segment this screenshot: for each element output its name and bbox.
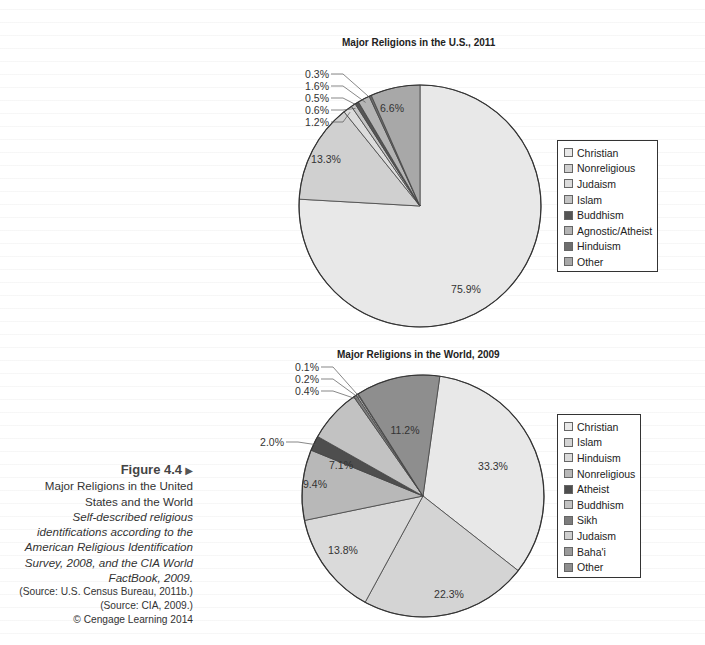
legend-swatch-icon [564,563,573,572]
caption-description-line: FactBook, 2009. [0,570,193,585]
legend-label: Nonreligious [577,468,635,480]
slice-label: 7.1% [329,459,353,471]
caption-description-line: identifications according to the [0,524,193,539]
slice-leader-label: 0.4% [295,385,319,397]
slice-label: 9.4% [303,478,327,490]
slice-label: 11.2% [391,424,420,436]
legend-label: Sikh [577,514,597,526]
legend-label: Judaism [577,530,616,542]
slice-leader-label: 2.0% [260,436,284,448]
legend-item: Nonreligious [564,466,634,482]
slice-label: 22.3% [434,588,464,600]
figure-label-row: Figure 4.4 ▶ [0,462,193,478]
legend-swatch-icon [564,469,573,478]
caption-title-line: States and the World [0,494,193,509]
slice-label: 13.8% [328,544,358,556]
legend-swatch-icon [564,516,573,525]
legend-label: Other [577,561,603,573]
figure-caption: Figure 4.4 ▶ Major Religions in the Unit… [0,462,193,627]
legend-item: Other [564,559,634,575]
slice-leader-label: 0.2% [295,373,319,385]
legend-item: Islam [564,435,634,451]
legend-item: Judaism [564,528,634,544]
legend-item: Buddhism [564,497,634,513]
legend-swatch-icon [564,453,573,462]
legend-item: Baha'i [564,544,634,560]
leader-line [321,367,360,397]
caption-description-line: American Religious Identification [0,539,193,554]
caption-source: (Source: CIA, 2009.) [0,599,193,613]
leader-line [286,442,318,445]
legend-label: Baha'i [577,546,606,558]
legend-label: Hinduism [577,452,621,464]
slice-label: 33.3% [478,460,508,472]
legend-item: Christian [564,419,634,435]
legend-swatch-icon [564,500,573,509]
legend-swatch-icon [564,485,573,494]
legend-label: Buddhism [577,499,624,511]
world-chart-legend: ChristianIslamHinduismNonreligiousAtheis… [557,414,641,578]
caption-title-line: Major Religions in the United [0,478,193,493]
triangle-right-icon: ▶ [185,465,193,476]
legend-swatch-icon [564,422,573,431]
legend-label: Islam [577,436,602,448]
caption-description-line: Survey, 2008, and the CIA World [0,555,193,570]
legend-swatch-icon [564,531,573,540]
legend-label: Atheist [577,483,609,495]
leader-line [321,379,359,398]
figure-label: Figure 4.4 [121,462,182,477]
caption-source: (Source: U.S. Census Bureau, 2011b.) [0,585,193,599]
legend-label: Christian [577,421,618,433]
legend-swatch-icon [564,547,573,556]
legend-item: Atheist [564,481,634,497]
legend-swatch-icon [564,438,573,447]
legend-item: Hinduism [564,450,634,466]
slice-leader-label: 0.1% [295,361,319,373]
caption-copyright: © Cengage Learning 2014 [0,613,193,627]
legend-item: Sikh [564,513,634,529]
caption-description-line: Self-described religious [0,509,193,524]
